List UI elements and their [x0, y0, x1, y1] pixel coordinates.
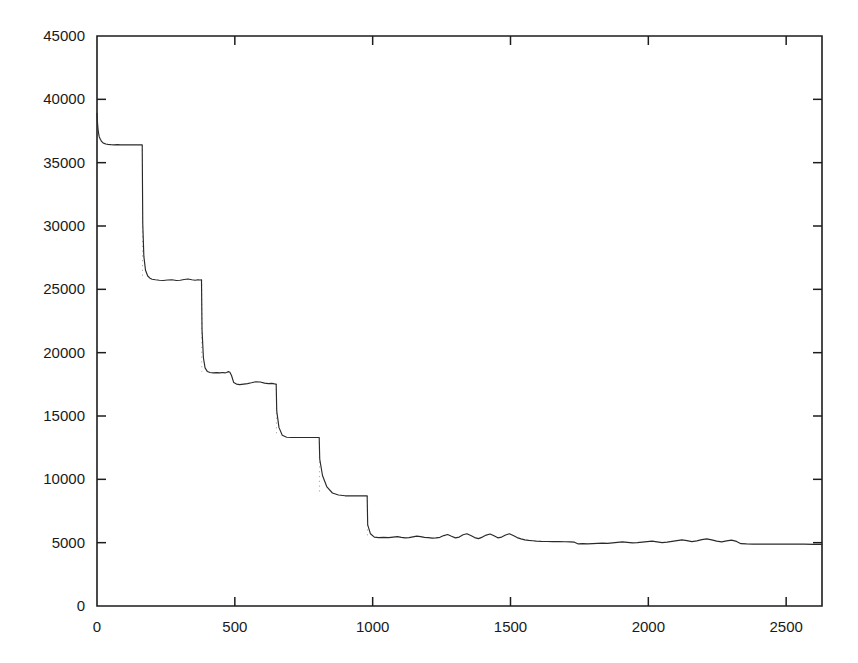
y-tick-label-0: 0 — [77, 597, 85, 614]
y-tick-label-35000: 35000 — [43, 154, 85, 171]
x-tick-label-0: 0 — [93, 618, 101, 635]
y-tick-label-30000: 30000 — [43, 217, 85, 234]
y-tick-label-20000: 20000 — [43, 344, 85, 361]
x-tick-label-500: 500 — [222, 618, 247, 635]
y-tick-label-25000: 25000 — [43, 280, 85, 297]
chart-background — [0, 0, 858, 663]
y-tick-label-40000: 40000 — [43, 90, 85, 107]
x-tick-label-2000: 2000 — [632, 618, 665, 635]
y-tick-label-15000: 15000 — [43, 407, 85, 424]
y-tick-label-5000: 5000 — [52, 534, 85, 551]
y-tick-label-10000: 10000 — [43, 470, 85, 487]
chart-figure: 0500010000150002000025000300003500040000… — [0, 0, 858, 663]
convergence-chart: 0500010000150002000025000300003500040000… — [0, 0, 858, 663]
x-tick-label-2500: 2500 — [769, 618, 802, 635]
y-tick-label-45000: 45000 — [43, 27, 85, 44]
x-tick-label-1000: 1000 — [356, 618, 389, 635]
x-tick-label-1500: 1500 — [494, 618, 527, 635]
